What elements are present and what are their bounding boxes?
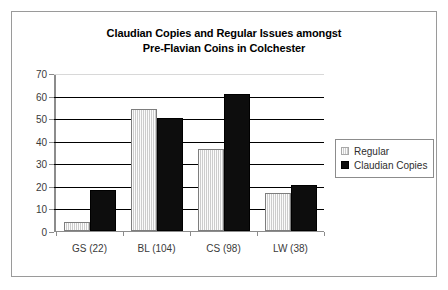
bar-group [123, 74, 190, 231]
y-axis-tick-mark [49, 209, 54, 210]
legend-item-claudian-copies: Claudian Copies [341, 158, 427, 172]
y-axis-tick-label: 0 [41, 227, 47, 238]
bar-regular [131, 109, 157, 231]
y-axis-tick-label: 10 [36, 204, 47, 215]
y-axis-tick-mark [49, 97, 54, 98]
bar-regular [265, 193, 291, 231]
x-axis-tick-mark [56, 232, 57, 236]
y-axis-tick-label: 40 [36, 136, 47, 147]
y-axis-tick-mark [49, 142, 54, 143]
chart-title-line-1: Claudian Copies and Regular Issues among… [12, 26, 436, 41]
y-axis-tick-mark [49, 164, 54, 165]
bar-claudian-copies [90, 190, 116, 231]
claudian-copies-swatch-icon [341, 161, 349, 169]
x-axis-tick-mark [324, 232, 325, 236]
y-axis-tick-label: 60 [36, 91, 47, 102]
plot-area: 010203040506070 GS (22)BL (104)CS (98)LW… [54, 74, 324, 232]
bar-claudian-copies [291, 185, 317, 231]
bar-group [56, 74, 123, 231]
x-axis-category-label: LW (38) [273, 243, 308, 254]
x-axis-tick-mark [190, 232, 191, 236]
y-axis-tick-mark [49, 74, 54, 75]
y-axis-tick-mark [49, 232, 54, 233]
chart-title: Claudian Copies and Regular Issues among… [12, 26, 436, 56]
x-axis-tick-mark [257, 232, 258, 236]
legend-item-regular: Regular [341, 144, 427, 158]
regular-swatch-icon [341, 147, 349, 155]
y-axis-tick-mark [49, 119, 54, 120]
chart-legend: Regular Claudian Copies [335, 139, 434, 178]
chart-title-line-2: Pre-Flavian Coins in Colchester [12, 41, 436, 56]
x-axis-category-label: CS (98) [206, 243, 240, 254]
y-axis-tick-label: 70 [36, 69, 47, 80]
bar-claudian-copies [157, 118, 183, 231]
bar-regular [198, 149, 224, 231]
bar-group [190, 74, 257, 231]
x-axis-line [54, 231, 324, 232]
bar-claudian-copies [224, 94, 250, 231]
y-axis-tick-label: 30 [36, 159, 47, 170]
y-axis-tick-mark [49, 187, 54, 188]
bar-regular [64, 222, 90, 231]
bars-layer [56, 74, 324, 231]
x-axis-tick-mark [123, 232, 124, 236]
bar-group [257, 74, 324, 231]
y-axis-tick-label: 20 [36, 181, 47, 192]
y-axis-tick-label: 50 [36, 114, 47, 125]
legend-label-claudian-copies: Claudian Copies [354, 160, 427, 171]
x-axis-category-label: GS (22) [72, 243, 107, 254]
chart-frame: Claudian Copies and Regular Issues among… [11, 11, 437, 277]
legend-label-regular: Regular [354, 146, 389, 157]
x-axis-category-label: BL (104) [138, 243, 176, 254]
